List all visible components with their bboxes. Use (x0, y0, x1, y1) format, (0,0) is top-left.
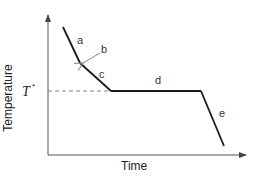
segment-d-label: d (155, 74, 161, 86)
reference-level-superscript: * (32, 82, 35, 91)
segment-a-label: a (77, 34, 84, 46)
reference-level-label: T (22, 84, 31, 99)
segment-b-pointer-arrow (83, 53, 100, 63)
segment-e-label: e (219, 107, 225, 119)
y-axis-title: Temperature (1, 64, 15, 132)
x-axis-title: Time (121, 159, 148, 173)
segment-b-label: b (101, 43, 107, 55)
cooling-curve-diagram: a b c d e T * Time Temperature (0, 0, 253, 183)
segment-c-label: c (99, 68, 105, 80)
segment-c (80, 63, 111, 91)
